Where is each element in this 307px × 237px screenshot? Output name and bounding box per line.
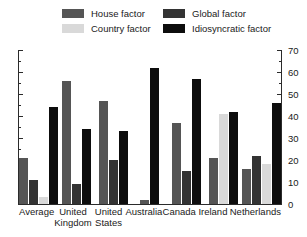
bar xyxy=(262,164,271,204)
legend-label-idiosyncratic-factor: Idiosyncratic factor xyxy=(192,24,271,34)
bar-group xyxy=(95,50,132,204)
bar xyxy=(62,81,71,204)
axis-tick-right-0 xyxy=(277,204,281,205)
bar xyxy=(29,180,38,204)
bar-group xyxy=(242,50,281,204)
bar xyxy=(172,123,181,204)
x-axis-tick-label: Average xyxy=(19,206,54,237)
legend-item-global-factor: Global factor xyxy=(163,8,246,19)
legend-item-country-factor: Country factor xyxy=(62,23,151,34)
bar xyxy=(192,79,201,204)
y-axis-tick-label-10: 10 xyxy=(288,178,299,187)
bar xyxy=(242,169,251,204)
y-axis-tick-label-50: 50 xyxy=(288,90,299,99)
legend-item-idiosyncratic-factor: Idiosyncratic factor xyxy=(163,23,271,34)
bar xyxy=(140,200,149,204)
x-axis-tick-label: United Kingdom xyxy=(54,206,92,237)
bar xyxy=(72,184,81,204)
y-axis-tick-label-70: 70 xyxy=(288,46,299,55)
bar xyxy=(150,68,159,204)
legend-item-house-factor: House factor xyxy=(62,8,145,19)
x-axis-tick-label: Australia xyxy=(125,206,162,237)
bar xyxy=(109,160,118,204)
legend-swatch-house-factor xyxy=(62,9,84,18)
y-axis-tick-label-60: 60 xyxy=(288,68,299,77)
legend-label-country-factor: Country factor xyxy=(91,24,151,34)
y-axis-tick-label-30: 30 xyxy=(288,134,299,143)
legend-swatch-country-factor xyxy=(62,24,84,33)
bar xyxy=(99,101,108,204)
legend-label-global-factor: Global factor xyxy=(192,9,246,19)
bar xyxy=(209,158,218,204)
bar xyxy=(219,114,228,204)
legend-swatch-global-factor xyxy=(163,9,185,18)
legend-label-house-factor: House factor xyxy=(91,9,145,19)
bar xyxy=(19,158,28,204)
bar xyxy=(82,129,91,204)
x-axis-tick-label: Canada xyxy=(162,206,196,237)
bar-group xyxy=(19,50,58,204)
x-axis-tick-labels: AverageUnited KingdomUnited StatesAustra… xyxy=(19,206,281,237)
y-axis-tick-label-40: 40 xyxy=(288,112,299,121)
y-axis-tick-label-20: 20 xyxy=(288,156,299,165)
axis-tick-left-0 xyxy=(19,204,23,205)
bar-groups xyxy=(19,50,281,204)
bar xyxy=(119,131,128,204)
bar xyxy=(272,103,281,204)
bar xyxy=(182,171,191,204)
chart-figure: House factor Global factor Country facto… xyxy=(0,0,307,237)
y-axis-right-line xyxy=(281,50,282,204)
x-axis-tick-label: Ireland xyxy=(196,206,230,237)
x-axis-tick-label: United States xyxy=(92,206,126,237)
legend-swatch-idiosyncratic-factor xyxy=(163,24,185,33)
bar xyxy=(49,107,58,204)
y-axis-tick-label-0: 0 xyxy=(288,200,293,209)
bar-group xyxy=(168,50,205,204)
x-axis-line xyxy=(18,204,282,205)
bar xyxy=(252,156,261,204)
bar xyxy=(229,112,238,204)
plot-area: 010203040506070 xyxy=(18,50,282,204)
bar xyxy=(39,197,48,204)
chart-legend: House factor Global factor Country facto… xyxy=(0,4,307,34)
x-axis-tick-label: Netherlands xyxy=(230,206,281,237)
bar-group xyxy=(205,50,242,204)
bar-group xyxy=(58,50,95,204)
bar-group xyxy=(132,50,169,204)
